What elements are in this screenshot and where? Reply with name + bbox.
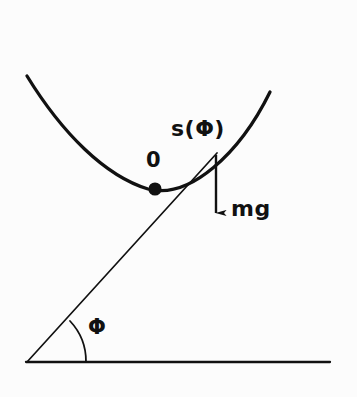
origin-label: 0	[146, 150, 161, 171]
physics-diagram-figure: s(Φ) 0 mg Φ	[0, 0, 357, 397]
diagram-canvas	[0, 0, 357, 397]
tangent-line	[27, 153, 217, 362]
weight-label: mg	[231, 198, 271, 220]
origin-dot	[148, 182, 161, 195]
angle-label: Φ	[88, 317, 106, 338]
curve-track	[27, 76, 270, 191]
angle-arc	[70, 321, 86, 362]
arc-length-label: s(Φ)	[171, 118, 225, 140]
